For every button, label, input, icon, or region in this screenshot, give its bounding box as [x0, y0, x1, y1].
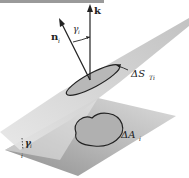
delta-a-region — [75, 113, 122, 146]
delta-a-subscript: i — [139, 135, 141, 142]
k-arrowhead-icon — [87, 4, 93, 12]
delta-s-subscript: Ti — [149, 74, 155, 81]
gamma-top-subscript: i — [78, 29, 80, 35]
diagram-canvas: k n i γ i ΔS Ti ΔA i γ i i — [0, 0, 189, 178]
k-label: k — [94, 5, 102, 16]
n-subscript: i — [58, 37, 60, 44]
n-arrowhead-icon — [59, 18, 65, 27]
delta-s-label: ΔS — [130, 68, 145, 79]
delta-a-label: ΔA — [120, 129, 135, 140]
surface-projection-diagram: k n i γ i ΔS Ti ΔA i γ i i — [0, 0, 189, 178]
gamma-bottom-subscript: i — [30, 143, 32, 149]
bottom-mark-label: i — [21, 152, 23, 159]
top-bar — [0, 0, 104, 3]
